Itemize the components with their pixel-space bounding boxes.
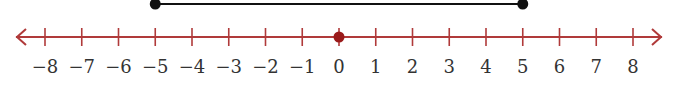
tick-label: 7 — [591, 56, 602, 77]
tick-label: 2 — [407, 56, 418, 77]
tick-label: −5 — [142, 56, 169, 77]
tick-label: −7 — [68, 56, 95, 77]
tick-label: −1 — [289, 56, 316, 77]
tick-label: 6 — [554, 56, 565, 77]
segment-endpoint-right — [517, 0, 528, 10]
tick-label: 5 — [517, 56, 528, 77]
tick-label: 8 — [627, 56, 638, 77]
tick-label: −8 — [32, 56, 59, 77]
segment-endpoint-left — [150, 0, 161, 10]
tick-label: 0 — [333, 56, 344, 77]
tick-label: −6 — [105, 56, 132, 77]
tick-label: −2 — [252, 56, 279, 77]
origin-point — [334, 32, 345, 43]
tick-label: 1 — [370, 56, 381, 77]
tick-label: 3 — [444, 56, 455, 77]
tick-label: −3 — [215, 56, 242, 77]
tick-label: 4 — [480, 56, 491, 77]
number-line-diagram: −8−7−6−5−4−3−2−1012345678 — [0, 0, 694, 94]
tick-label: −4 — [179, 56, 206, 77]
